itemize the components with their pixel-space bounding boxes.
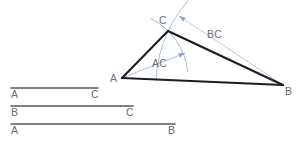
- measure-label-ac: AC: [152, 57, 167, 69]
- vertex-label-b: B: [285, 85, 292, 97]
- reference-segment-right-label: B: [168, 124, 175, 136]
- geometry-figure: A C B AC BC A C B C A B: [0, 0, 300, 144]
- construction-canvas: A C B AC BC A C B C A B: [0, 0, 300, 144]
- triangle-side-ab: [122, 78, 283, 85]
- reference-segment-right-label: C: [126, 106, 134, 118]
- triangle-side-ac: [122, 31, 168, 78]
- measure-label-bc: BC: [207, 28, 222, 40]
- reference-segment-bc: B C: [11, 106, 134, 118]
- reference-segments-group: A C B C A B: [11, 88, 175, 136]
- reference-segment-left-label: B: [11, 106, 18, 118]
- reference-segment-left-label: A: [11, 88, 18, 100]
- radius-line-bc: [179, 16, 283, 85]
- triangle-sides-group: [122, 31, 283, 85]
- reference-segment-right-label: C: [91, 88, 99, 100]
- vertex-label-a: A: [110, 72, 117, 84]
- measure-labels-group: AC BC: [152, 28, 222, 69]
- reference-segment-ab: A B: [11, 124, 175, 136]
- reference-segment-left-label: A: [11, 124, 18, 136]
- arrowhead-bc-icon: [179, 16, 186, 22]
- vertex-label-c: C: [159, 14, 167, 26]
- reference-segment-ac: A C: [11, 88, 99, 100]
